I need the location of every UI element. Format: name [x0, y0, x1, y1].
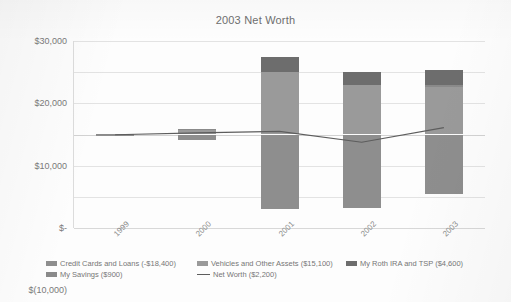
- legend-item-label: My Savings ($900): [60, 270, 123, 279]
- legend-color-swatch: [46, 261, 57, 266]
- legend-item[interactable]: My Savings ($900): [46, 270, 123, 279]
- y-axis-tick-label: $-: [59, 223, 67, 233]
- net-worth-polyline: [115, 128, 444, 143]
- legend-item[interactable]: Credit Cards and Loans (-$18,400): [46, 259, 176, 268]
- legend-item-label: Vehicles and Other Assets ($15,100): [211, 259, 333, 268]
- net-worth-chart: 2003 Net Worth $30,000$20,000$10,000$-$(…: [0, 0, 511, 302]
- plot-area: $30,000$20,000$10,000$-$(10,000)$(20,000…: [74, 41, 485, 228]
- legend-line-marker: [197, 272, 210, 277]
- y-axis-tick-label: $10,000: [34, 161, 67, 171]
- legend-row: My Savings ($900)Net Worth ($2,200): [46, 270, 466, 281]
- y-axis-tick-label: $(10,000): [28, 285, 67, 295]
- y-axis-tick-label: $30,000: [34, 36, 67, 46]
- legend-item[interactable]: Net Worth ($2,200): [197, 270, 277, 279]
- y-axis-tick-label: $20,000: [34, 98, 67, 108]
- chart-legend: Credit Cards and Loans (-$18,400)Vehicle…: [46, 259, 466, 281]
- legend-item[interactable]: Vehicles and Other Assets ($15,100): [197, 259, 333, 268]
- legend-item-label: My Roth IRA and TSP ($4,600): [360, 259, 463, 268]
- net-worth-line-series: [74, 41, 485, 228]
- legend-color-swatch: [197, 261, 208, 266]
- legend-item[interactable]: My Roth IRA and TSP ($4,600): [346, 259, 463, 268]
- legend-row: Credit Cards and Loans (-$18,400)Vehicle…: [46, 259, 466, 270]
- legend-item-label: Credit Cards and Loans (-$18,400): [60, 259, 176, 268]
- legend-color-swatch: [46, 272, 57, 277]
- legend-color-swatch: [346, 261, 357, 266]
- chart-title: 2003 Net Worth: [0, 14, 511, 26]
- legend-item-label: Net Worth ($2,200): [213, 270, 277, 279]
